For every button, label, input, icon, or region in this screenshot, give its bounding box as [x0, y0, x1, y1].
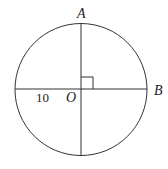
right-angle-marker: [81, 77, 93, 89]
label-o: O: [66, 90, 76, 105]
circle-diagram: A B O 10: [0, 0, 168, 169]
radius-label: 10: [36, 90, 49, 105]
label-a: A: [76, 6, 86, 21]
label-b: B: [154, 83, 163, 98]
